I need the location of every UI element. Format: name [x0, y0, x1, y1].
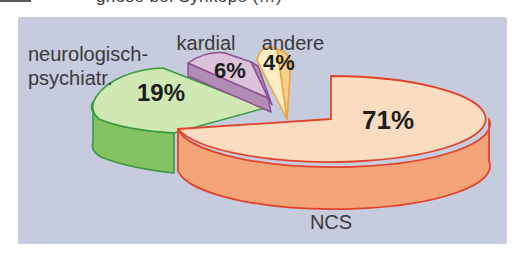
value-ncs-pct: 71%	[362, 105, 414, 136]
label-ncs: NCS	[310, 211, 352, 234]
pie-chart	[0, 0, 513, 258]
value-kardial-pct: 6%	[214, 58, 246, 84]
label-neuro-line1: neurologisch-	[28, 42, 148, 66]
figure-root: gnose bei Synkope (…) neurologisch- psyc…	[0, 0, 513, 258]
label-neuro-line2: psychiatr.	[28, 66, 148, 90]
value-andere-pct: 4%	[263, 50, 295, 76]
value-neuro-pct: 19%	[137, 79, 185, 107]
label-neuro: neurologisch- psychiatr.	[28, 42, 148, 90]
label-kardial: kardial	[177, 31, 236, 55]
